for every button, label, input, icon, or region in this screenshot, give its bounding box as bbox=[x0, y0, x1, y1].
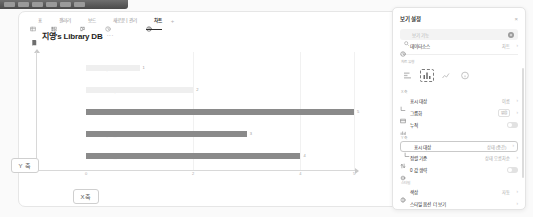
panel-header: 보기 설정 × bbox=[400, 14, 518, 24]
screenshot-root: 표갤러리보드새로운 | 관리차트+ 지영's Library DB ··· 02… bbox=[0, 0, 533, 217]
view-tab-2[interactable]: 보드 bbox=[80, 15, 96, 27]
view-tab-1[interactable]: 갤러리 bbox=[51, 15, 71, 27]
panel-section-label: 차트 유형 bbox=[401, 59, 518, 64]
bar-value-label: 5 bbox=[357, 110, 359, 114]
panel-row-label: 색상 bbox=[410, 189, 498, 195]
chart-row: 읽었음4 bbox=[31, 146, 371, 166]
chevron-right-icon: › bbox=[516, 156, 518, 161]
panel-row-y-0 값 생략[interactable]: 0 값 생략 bbox=[400, 164, 518, 176]
view-tab-label: 차트 bbox=[154, 19, 162, 24]
view-tab-0[interactable]: 표 bbox=[30, 15, 42, 27]
panel-row-value: 상태 오름차순 bbox=[485, 155, 510, 161]
chart-row: 읽는 중5 bbox=[31, 102, 371, 122]
bar-chart-icon[interactable] bbox=[401, 69, 415, 82]
chart-row: 읽다 말았음3 bbox=[31, 124, 371, 144]
bar-value-label: 1 bbox=[143, 66, 145, 70]
view-tab-label: 새로운 | 관리 bbox=[113, 19, 137, 24]
omit-icon bbox=[400, 167, 406, 173]
chart-icon bbox=[146, 18, 152, 24]
chart-bar[interactable] bbox=[86, 65, 140, 71]
x-axis-tick-label: 5 bbox=[353, 172, 355, 176]
panel-row-label: 데이터소스 bbox=[410, 43, 498, 49]
chart-bar[interactable] bbox=[86, 109, 354, 115]
divider bbox=[400, 54, 518, 55]
x-axis-annotation: X축 bbox=[73, 189, 99, 204]
clock-icon bbox=[105, 18, 111, 24]
group-icon bbox=[400, 110, 406, 116]
chevron-right-icon: › bbox=[516, 99, 518, 104]
chrome-chip bbox=[32, 2, 43, 7]
panel-row-value: 이름 bbox=[502, 98, 510, 104]
bar-value-label: 3 bbox=[250, 132, 252, 136]
panel-row-label: 그룹화 bbox=[410, 110, 494, 116]
axis-x-icon bbox=[400, 98, 406, 104]
panel-row-style-스타일 옵션 더 보기[interactable]: 스타일 옵션 더 보기› bbox=[400, 198, 518, 210]
view-tab-bar[interactable]: 표갤러리보드새로운 | 관리차트+ bbox=[30, 15, 174, 27]
page-more-icon[interactable]: ··· bbox=[106, 32, 113, 39]
panel-row-datasource[interactable]: 데이터소스차트› bbox=[400, 40, 518, 52]
view-tab-label: 표 bbox=[38, 19, 42, 24]
panel-row-x-누적[interactable]: 누적 bbox=[400, 119, 518, 131]
line-chart-icon[interactable] bbox=[439, 69, 453, 82]
chart-row: 읽기 전2 bbox=[31, 80, 371, 100]
view-tab-4[interactable]: 차트 bbox=[146, 15, 162, 27]
panel-scrollbar[interactable] bbox=[522, 68, 524, 178]
more-types-icon[interactable] bbox=[458, 69, 472, 82]
toggle-switch[interactable] bbox=[507, 167, 518, 173]
sort-icon bbox=[400, 155, 406, 161]
search-icon bbox=[404, 32, 409, 37]
panel-section-label: 스타일 bbox=[401, 180, 518, 185]
chrome-chip bbox=[60, 2, 71, 7]
panel-section-label: Y축 bbox=[401, 135, 518, 140]
panel-row-value: 차트 bbox=[502, 43, 510, 49]
plus-circle-icon[interactable] bbox=[508, 32, 514, 38]
panel-row-value: 상태 (중간) bbox=[487, 144, 507, 150]
panel-row-y-정렬 기준[interactable]: 정렬 기준상태 오름차순› bbox=[400, 152, 518, 164]
panel-row-value: 자동 bbox=[502, 189, 510, 195]
y-axis-annotation: Y 축 bbox=[11, 158, 39, 173]
panel-row-style-색상[interactable]: 색상자동› bbox=[400, 186, 518, 198]
x-axis-tick-label: 2 bbox=[192, 172, 194, 176]
bar-value-label: 2 bbox=[196, 88, 198, 92]
panel-title: 보기 설정 bbox=[400, 15, 422, 23]
close-icon[interactable]: × bbox=[514, 16, 518, 22]
chrome-chip bbox=[46, 2, 57, 7]
panel-row-label: 표시 대상 bbox=[410, 98, 498, 104]
panel-row-x-그룹화[interactable]: 그룹화없음› bbox=[400, 107, 518, 119]
chevron-right-icon: › bbox=[516, 111, 518, 116]
panel-row-label: 스타일 옵션 더 보기 bbox=[410, 201, 506, 207]
axis-y-icon bbox=[404, 144, 410, 150]
x-axis-tick-label: 4 bbox=[299, 172, 301, 176]
options-icon bbox=[400, 201, 406, 207]
view-tab-label: 보드 bbox=[88, 19, 96, 24]
window-chrome-strip bbox=[0, 0, 128, 9]
chart-bar[interactable] bbox=[86, 131, 247, 137]
panel-row-value: 없음 bbox=[498, 109, 510, 117]
view-tab-3[interactable]: 새로운 | 관리 bbox=[105, 15, 137, 27]
search-placeholder: 보기 기능 bbox=[412, 32, 505, 38]
chart-row: 사고 싶은1 bbox=[31, 58, 371, 78]
stack-icon bbox=[400, 122, 406, 128]
chart-type-selector[interactable] bbox=[400, 65, 518, 85]
table-icon bbox=[30, 18, 36, 24]
chrome-chip bbox=[4, 2, 15, 7]
panel-row-y-표시 대상[interactable]: 표시 대상상태 (중간)› bbox=[400, 141, 518, 152]
chevron-right-icon: › bbox=[516, 202, 518, 207]
color-icon bbox=[400, 189, 406, 195]
panel-row-label: 누적 bbox=[410, 122, 503, 128]
panel-row-label: 0 값 생략 bbox=[410, 167, 503, 173]
chart-bar[interactable] bbox=[86, 87, 193, 93]
add-view-button[interactable]: + bbox=[171, 18, 175, 24]
column-chart-icon[interactable] bbox=[420, 69, 434, 82]
view-tab-label: 갤러리 bbox=[59, 19, 71, 24]
toggle-switch[interactable] bbox=[507, 122, 518, 128]
book-icon bbox=[31, 32, 38, 39]
view-settings-panel: 보기 설정 × 보기 기능 데이터소스차트›차트 유형X축표시 대상이름›그룹화… bbox=[392, 7, 526, 210]
panel-search[interactable]: 보기 기능 bbox=[400, 29, 518, 40]
panel-section-label: X축 bbox=[401, 89, 518, 94]
board-icon bbox=[80, 18, 86, 24]
x-axis-arrow-icon bbox=[355, 168, 359, 174]
panel-row-x-표시 대상[interactable]: 표시 대상이름› bbox=[400, 95, 518, 107]
chart-bar[interactable] bbox=[86, 153, 300, 159]
chevron-right-icon: › bbox=[516, 44, 518, 49]
